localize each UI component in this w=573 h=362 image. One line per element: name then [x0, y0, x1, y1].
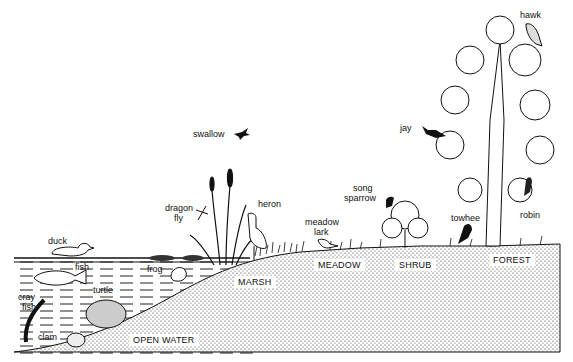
- song-sparrow-drawing: [386, 197, 394, 208]
- label-meadowlark-1: meadow: [305, 217, 339, 227]
- label-heron: heron: [258, 199, 281, 209]
- lily-pad: [149, 255, 175, 261]
- label-dragonfly-2: fly: [174, 213, 183, 223]
- dragonfly-drawing: [196, 206, 208, 220]
- label-jay: jay: [400, 123, 412, 133]
- label-song-sparrow-1: song: [353, 183, 373, 193]
- zone-open-water: OPEN WATER: [129, 334, 199, 346]
- label-frog: frog: [147, 264, 163, 274]
- clam-drawing: [67, 333, 85, 347]
- lily-pad: [182, 255, 204, 261]
- label-robin: robin: [520, 210, 540, 220]
- label-dragonfly-1: dragon: [165, 203, 193, 213]
- label-towhee: towhee: [451, 213, 480, 223]
- zone-shrub: SHRUB: [395, 259, 436, 271]
- label-fish: fish: [75, 262, 89, 272]
- label-swallow: swallow: [193, 129, 225, 139]
- label-song-sparrow-2: sparrow: [344, 193, 376, 203]
- meadowlark-drawing: [318, 239, 338, 248]
- swallow-drawing: [234, 128, 250, 140]
- zone-forest: FOREST: [489, 254, 535, 266]
- label-meadowlark-2: lark: [314, 227, 329, 237]
- label-duck: duck: [48, 236, 67, 246]
- label-crayfish-1: cray: [18, 292, 35, 302]
- label-crayfish-2: fish: [22, 302, 36, 312]
- label-hawk: hawk: [520, 10, 541, 20]
- towhee-drawing: [458, 224, 472, 244]
- zone-marsh: MARSH: [234, 276, 276, 288]
- jay-drawing: [422, 126, 446, 138]
- heron-drawing: [248, 213, 266, 260]
- zone-meadow: MEADOW: [314, 259, 365, 271]
- label-turtle: turtle: [93, 285, 113, 295]
- succession-illustration: [0, 0, 573, 362]
- hawk-drawing: [526, 24, 542, 46]
- shrub-drawing: [382, 201, 428, 248]
- label-clam: clam: [38, 332, 57, 342]
- turtle-drawing: [86, 300, 126, 328]
